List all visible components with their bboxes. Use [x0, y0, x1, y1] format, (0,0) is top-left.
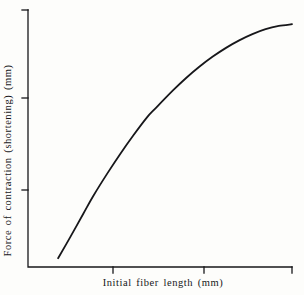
y-axis-label: Force of contraction (shortening) (mm): [0, 0, 16, 295]
chart-figure: Force of contraction (shortening) (mm) I…: [0, 0, 304, 295]
axis-spines: [28, 10, 292, 267]
x-axis-label: Initial fiber length (mm): [0, 277, 304, 288]
x-axis-ticks: [113, 267, 292, 273]
y-axis-ticks: [22, 10, 28, 190]
data-curve: [58, 24, 292, 258]
plot-area: [0, 0, 304, 295]
